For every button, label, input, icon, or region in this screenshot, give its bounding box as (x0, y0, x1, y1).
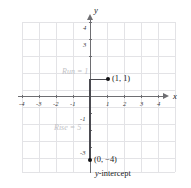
x-tick (141, 95, 142, 98)
y-intercept-label-rest: -intercept (99, 169, 131, 178)
x-tick (107, 95, 108, 98)
y-tick-label: 3 (83, 42, 86, 49)
rise-segment (89, 79, 91, 160)
x-tick-label: -2 (53, 101, 59, 108)
x-tick (73, 95, 74, 98)
y-tick (89, 39, 92, 40)
x-tick-label: -3 (36, 101, 42, 108)
x-tick (39, 95, 40, 98)
gridline-horizontal (22, 39, 175, 40)
point-label-1-1: (1, 1) (112, 75, 130, 83)
point-label-0-neg4: (0, −4) (94, 156, 117, 164)
y-tick (89, 56, 92, 57)
point-marker-0-neg4 (88, 158, 93, 163)
y-intercept-label: y-intercept (95, 170, 131, 178)
y-tick (89, 22, 92, 23)
x-tick-label: 1 (106, 101, 109, 108)
gridline-horizontal (22, 56, 175, 57)
x-tick-label: -1 (70, 101, 76, 108)
y-tick-label: 4 (83, 25, 86, 32)
y-tick-label: -1 (80, 116, 86, 123)
x-tick-label: -4 (19, 101, 25, 108)
gridline-horizontal (22, 73, 175, 74)
y-axis-arrow-icon (87, 14, 93, 20)
x-tick (56, 95, 57, 98)
x-tick-label: 4 (157, 101, 160, 108)
y-axis-label: y (94, 6, 98, 15)
rise-label: Rise = 5 (54, 124, 81, 132)
coordinate-plane-figure: -4 -3 -2 -1 1 2 3 4 4 3 -1 -3 x y Run = … (0, 0, 191, 188)
x-axis-label: x (173, 92, 177, 101)
gridline-horizontal (22, 107, 175, 108)
x-tick (22, 95, 23, 98)
x-axis-arrow-icon (163, 93, 169, 99)
run-label: Run = 1 (62, 68, 88, 76)
gridline-horizontal (22, 22, 175, 23)
x-tick (124, 95, 125, 98)
x-tick (158, 95, 159, 98)
gridline-horizontal (22, 141, 175, 142)
y-tick-label: -3 (80, 150, 86, 157)
x-tick-label: 2 (123, 101, 126, 108)
x-tick-label: 3 (140, 101, 143, 108)
point-marker-1-1 (106, 77, 111, 82)
gridline-horizontal (22, 124, 175, 125)
gridline-horizontal (22, 90, 175, 91)
